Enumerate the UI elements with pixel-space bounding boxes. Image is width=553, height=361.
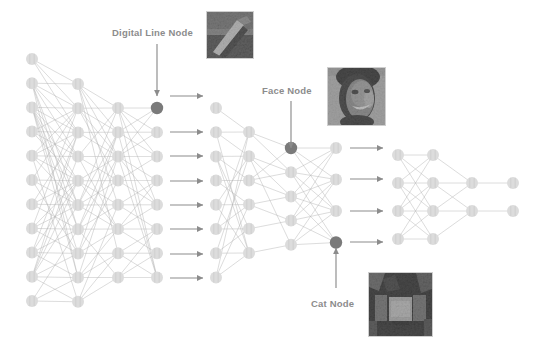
network-node: [26, 174, 38, 186]
network-node: [26, 271, 38, 283]
network-node: [243, 126, 255, 138]
network-node: [285, 239, 297, 251]
network-node: [72, 247, 84, 259]
network-node: [392, 149, 404, 161]
network-node: [210, 126, 222, 138]
network-node: [330, 205, 342, 217]
highlighted-node: [330, 236, 342, 248]
network-node: [285, 166, 297, 178]
network-node: [285, 190, 297, 202]
network-node: [72, 272, 84, 284]
network-node: [112, 271, 124, 283]
network-node: [112, 199, 124, 211]
network-node: [72, 199, 84, 211]
network-node: [210, 271, 222, 283]
label-face-node: Face Node: [262, 85, 312, 97]
face-thumb: [327, 67, 386, 126]
cat-thumb: [368, 272, 433, 337]
network-node: [210, 199, 222, 211]
network-node: [285, 215, 297, 227]
network-node: [26, 198, 38, 210]
label-digital-line-node: Digital Line Node: [112, 27, 193, 39]
network-node: [112, 102, 124, 114]
network-node: [151, 271, 163, 283]
network-node: [210, 247, 222, 259]
network-node: [72, 78, 84, 90]
network-node: [392, 177, 404, 189]
network-node: [392, 205, 404, 217]
network-node: [26, 222, 38, 234]
network-node: [26, 53, 38, 65]
network-node: [26, 295, 38, 307]
network-node: [427, 177, 439, 189]
network-node: [210, 102, 222, 114]
network-node: [26, 247, 38, 259]
network-node: [26, 101, 38, 113]
network-node: [392, 233, 404, 245]
network-node: [210, 223, 222, 235]
network-node: [112, 223, 124, 235]
network-node: [210, 175, 222, 187]
network-node: [112, 175, 124, 187]
network-node: [112, 247, 124, 259]
network-node: [427, 233, 439, 245]
network-node: [151, 150, 163, 162]
network-node: [243, 174, 255, 186]
network-node: [243, 223, 255, 235]
network-node: [72, 223, 84, 235]
network-node: [507, 177, 519, 189]
network-node: [112, 150, 124, 162]
network-node: [26, 150, 38, 162]
network-node: [151, 223, 163, 235]
network-node: [112, 126, 124, 138]
highlighted-node: [151, 102, 163, 114]
network-node: [151, 247, 163, 259]
network-node: [151, 126, 163, 138]
neural-network-graphic: [0, 0, 553, 361]
network-node: [427, 149, 439, 161]
network-node: [72, 175, 84, 187]
network-node: [330, 174, 342, 186]
network-node: [72, 102, 84, 114]
network-node: [243, 199, 255, 211]
network-node: [330, 142, 342, 154]
network-node: [507, 205, 519, 217]
network-node: [243, 247, 255, 259]
network-node: [72, 126, 84, 138]
network-node: [151, 175, 163, 187]
network-node: [243, 150, 255, 162]
network-node: [72, 296, 84, 308]
network-node: [26, 126, 38, 138]
network-node: [466, 205, 478, 217]
network-node: [427, 205, 439, 217]
network-node: [210, 150, 222, 162]
network-node: [26, 77, 38, 89]
diagram-canvas: Digital Line Node Face Node Cat Node: [0, 0, 553, 361]
network-node: [72, 151, 84, 163]
digital-line-thumb: [206, 11, 254, 59]
network-node: [466, 177, 478, 189]
label-cat-node: Cat Node: [311, 298, 354, 310]
network-node: [151, 199, 163, 211]
